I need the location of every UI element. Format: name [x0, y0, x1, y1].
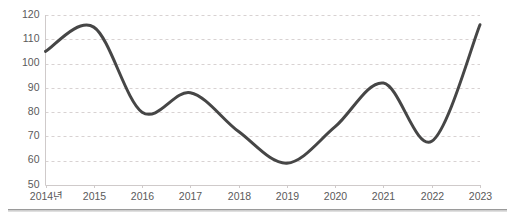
x-tick-label-2: 2016: [131, 190, 155, 200]
x-tick-labels: 2014년20152016201720182019202020212022202…: [30, 190, 493, 200]
line-chart-figure: 5060708090100110120 2014년201520162017201…: [0, 0, 515, 200]
y-tick-label-120: 120: [22, 8, 40, 20]
y-tick-label-90: 90: [28, 81, 40, 93]
x-tick-label-5: 2019: [276, 190, 300, 200]
x-tick-label-1: 2015: [83, 190, 107, 200]
x-tick-label-0: 2014년: [30, 190, 63, 200]
y-tick-label-60: 60: [28, 153, 40, 165]
y-tick-label-50: 50: [28, 178, 40, 190]
data-line-series-1: [46, 25, 481, 163]
bottom-rule: [8, 209, 507, 212]
x-tick-label-6: 2020: [324, 190, 348, 200]
y-tick-label-70: 70: [28, 129, 40, 141]
gridlines: [46, 16, 481, 186]
x-tick-label-4: 2018: [228, 190, 252, 200]
x-tick-label-3: 2017: [179, 190, 203, 200]
x-tick-label-8: 2022: [421, 190, 445, 200]
y-tick-labels: 5060708090100110120: [22, 8, 40, 190]
chart-canvas: 5060708090100110120 2014년201520162017201…: [0, 0, 515, 200]
y-tick-label-100: 100: [22, 56, 40, 68]
y-tick-label-80: 80: [28, 105, 40, 117]
y-tick-label-110: 110: [23, 32, 40, 44]
x-tick-label-9: 2023: [469, 190, 493, 200]
x-tick-label-7: 2021: [372, 190, 396, 200]
